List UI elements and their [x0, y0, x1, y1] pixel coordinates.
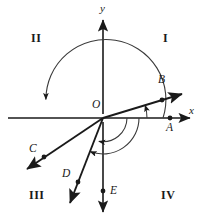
point-b-label: B [158, 74, 165, 86]
point-b-dot [160, 98, 165, 103]
ray-oc [27, 118, 103, 169]
point-d-dot [76, 180, 81, 185]
origin-label: O [92, 99, 100, 111]
point-a-dot [168, 116, 173, 121]
ray-ob [103, 94, 182, 118]
point-e-label: E [110, 185, 117, 197]
arc-tiny-ob [145, 105, 147, 118]
ray-od [70, 118, 103, 203]
arc-medium-cw [90, 118, 139, 154]
quadrant-label-three: III [29, 189, 45, 201]
quadrant-label-two: II [31, 32, 41, 44]
figure-canvas: x y O I II III IV A B C D E [0, 0, 205, 220]
y-axis-label: y [100, 3, 105, 14]
point-c-label: C [29, 143, 37, 155]
point-d-label: D [62, 168, 70, 180]
quadrant-label-one: I [163, 32, 168, 44]
quadrant-label-four: IV [161, 189, 175, 201]
point-c-dot [42, 155, 47, 160]
point-a-label: A [166, 122, 173, 134]
x-axis-label: x [189, 105, 194, 116]
arc-large-ccw [46, 40, 166, 118]
point-e-dot [101, 189, 106, 194]
